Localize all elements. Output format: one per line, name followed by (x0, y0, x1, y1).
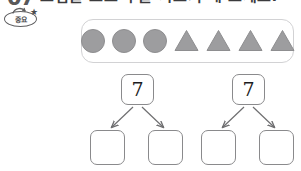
page-title: 그림을 보고 수를 가르기 해 보세요. (40, 0, 290, 4)
number-bond-left: 7 (88, 74, 196, 171)
bond-whole-box[interactable]: 7 (121, 74, 154, 105)
shapes-row (82, 20, 293, 62)
bond-part-box-right[interactable] (259, 130, 294, 165)
number-bond-right: 7 (199, 74, 301, 171)
bond-part-box-left[interactable] (90, 130, 125, 165)
circle-shape (112, 29, 136, 53)
bond-part-box-right[interactable] (148, 130, 183, 165)
problem-title: 그림을 보고 수를 가르기 해 보세요. (40, 0, 290, 7)
circle-shape (143, 29, 167, 53)
important-badge: 중요 ★ (4, 11, 37, 27)
circle-shape (81, 29, 105, 53)
bond-whole-value: 7 (242, 80, 254, 99)
triangle-shape (174, 29, 199, 54)
bond-whole-box[interactable]: 7 (232, 74, 265, 105)
bond-whole-value: 7 (131, 80, 143, 99)
triangle-shape (238, 29, 263, 54)
triangle-shape (270, 29, 295, 54)
bond-part-box-left[interactable] (201, 130, 236, 165)
triangle-shape (206, 29, 231, 54)
shapes-panel (81, 19, 294, 63)
star-icon: ★ (30, 8, 38, 17)
